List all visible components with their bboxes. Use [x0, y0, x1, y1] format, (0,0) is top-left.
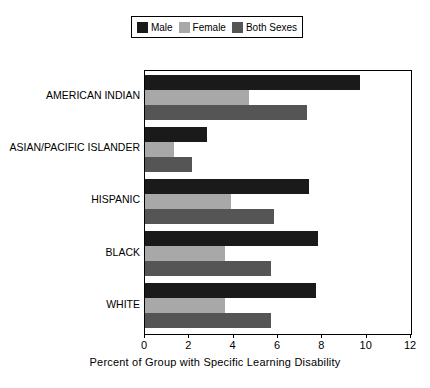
legend-label: Female [193, 22, 226, 33]
bar [145, 179, 309, 194]
y-axis-label: ASIAN/PACIFIC ISLANDER [0, 141, 140, 153]
bar [145, 127, 207, 142]
legend-label: Both Sexes [246, 22, 297, 33]
x-axis-tick [366, 334, 367, 338]
bar [145, 231, 318, 246]
x-axis-tick-label: 6 [257, 339, 297, 351]
x-axis-tick-label: 10 [346, 339, 386, 351]
bar [145, 90, 249, 105]
bar [145, 142, 174, 157]
y-axis-label: AMERICAN INDIAN [0, 89, 140, 101]
plot-area [144, 70, 412, 335]
x-axis-tick-label: 8 [301, 339, 341, 351]
bar [145, 313, 271, 328]
bar [145, 157, 192, 172]
x-axis-tick-label: 2 [168, 339, 208, 351]
bar-group [145, 127, 411, 172]
bar-group [145, 283, 411, 328]
bars-container [145, 71, 411, 334]
bar [145, 75, 360, 90]
bar [145, 261, 271, 276]
x-axis-tick [144, 334, 145, 338]
chart-legend: MaleFemaleBoth Sexes [131, 16, 303, 38]
bar [145, 209, 274, 224]
y-axis-label: WHITE [0, 298, 140, 310]
bar [145, 298, 225, 313]
bar [145, 194, 231, 209]
bar [145, 246, 225, 261]
legend-label: Male [151, 22, 173, 33]
x-axis-tick-label: 12 [390, 339, 430, 351]
legend-entry[interactable]: Female [179, 22, 226, 33]
x-axis-tick [188, 334, 189, 338]
x-axis-tick [410, 334, 411, 338]
bar-group [145, 231, 411, 276]
legend-swatch-icon [179, 22, 190, 33]
bar [145, 283, 316, 298]
legend-entry[interactable]: Both Sexes [232, 22, 297, 33]
y-axis-label: BLACK [0, 246, 140, 258]
x-axis-tick [321, 334, 322, 338]
x-axis-tick-label: 4 [213, 339, 253, 351]
bar-group [145, 179, 411, 224]
x-axis-title: Percent of Group with Specific Learning … [0, 356, 430, 368]
x-axis-tick [233, 334, 234, 338]
legend-swatch-icon [137, 22, 148, 33]
legend-entry[interactable]: Male [137, 22, 173, 33]
bar [145, 105, 307, 120]
bar-chart: MaleFemaleBoth Sexes AMERICAN INDIANASIA… [0, 0, 430, 388]
legend-swatch-icon [232, 22, 243, 33]
x-axis-tick-label: 0 [124, 339, 164, 351]
y-axis-label: HISPANIC [0, 193, 140, 205]
x-axis-tick [277, 334, 278, 338]
bar-group [145, 75, 411, 120]
